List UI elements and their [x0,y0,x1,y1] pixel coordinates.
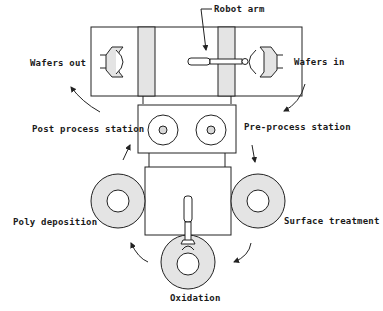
post-process-arrow [123,145,130,160]
pre-process-arrow [252,145,255,162]
gate-valve-left [138,27,155,96]
poly-deposition-arrow [131,243,148,262]
robot-arm-label: Robot arm [214,4,265,14]
wafers-out-label: Wafers out [30,58,86,68]
surface-treatment-chamber-icon [231,174,285,228]
wafers-in-label: Wafers in [294,57,345,67]
poly-deposition-label: Poly deposition [13,217,97,227]
post-process-station-label: Post process station [32,124,144,134]
oxidation-arrow [234,243,251,262]
process-station-block [138,105,236,153]
robot-arm-top-icon [188,58,248,65]
surface-treatment-label: Surface treatment [284,216,380,226]
poly-deposition-chamber-icon [91,174,145,228]
oxidation-label: Oxidation [170,293,221,303]
cluster-tool-diagram [0,0,383,311]
pre-process-station-label: Pre-process station [244,122,351,132]
